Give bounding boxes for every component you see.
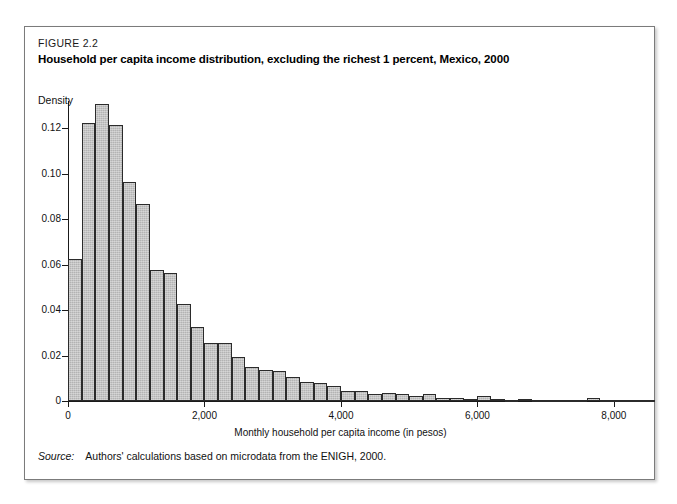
histogram-bar <box>628 400 642 402</box>
histogram-bar <box>518 399 532 401</box>
histogram-bar <box>95 104 109 401</box>
histogram-bar <box>587 398 601 401</box>
histogram-bar <box>396 394 410 401</box>
histogram-bar <box>436 398 450 401</box>
histogram-bar <box>273 371 287 401</box>
histogram-bar <box>532 400 546 402</box>
source-note: Source: Authors' calculations based on m… <box>38 450 386 462</box>
histogram-bar <box>341 391 355 401</box>
histogram-bar <box>177 304 191 401</box>
figure-page: FIGURE 2.2 Household per capita income d… <box>0 0 677 504</box>
histogram-bar <box>450 398 464 401</box>
histogram-bar <box>491 399 505 401</box>
histogram-bar <box>327 386 341 401</box>
histogram-bar <box>300 382 314 401</box>
histogram-bar <box>600 400 614 402</box>
histogram-bar <box>82 123 96 401</box>
histogram-bar <box>464 399 478 401</box>
histogram-bar <box>191 327 205 401</box>
source-label: Source: <box>38 450 74 462</box>
histogram-bar <box>382 393 396 401</box>
chart-plot-area: Density 00.020.040.060.080.100.12 02,000… <box>25 27 656 481</box>
histogram-bar <box>123 182 137 401</box>
histogram-bar <box>409 396 423 401</box>
histogram-bar <box>573 400 587 402</box>
histogram-bar <box>204 343 218 401</box>
histogram-bar <box>614 400 628 402</box>
histogram-bar <box>477 396 491 401</box>
histogram-bars <box>25 27 656 481</box>
histogram-bar <box>218 343 232 401</box>
histogram-bar <box>245 367 259 401</box>
histogram-bar <box>150 270 164 401</box>
histogram-bar <box>368 394 382 401</box>
histogram-bar <box>314 383 328 401</box>
histogram-bar <box>559 400 573 402</box>
figure-panel: FIGURE 2.2 Household per capita income d… <box>24 26 655 480</box>
histogram-bar <box>505 400 519 402</box>
x-axis-title: Monthly household per capita income (in … <box>25 427 656 438</box>
histogram-bar <box>641 400 655 402</box>
histogram-bar <box>109 125 123 401</box>
histogram-bar <box>232 357 246 401</box>
histogram-bar <box>259 370 273 401</box>
histogram-bar <box>355 391 369 401</box>
histogram-bar <box>286 377 300 401</box>
histogram-bar <box>164 273 178 401</box>
histogram-bar <box>136 204 150 401</box>
source-text: Authors' calculations based on microdata… <box>85 450 386 462</box>
histogram-bar <box>68 259 82 401</box>
histogram-bar <box>546 400 560 402</box>
histogram-bar <box>423 394 437 401</box>
